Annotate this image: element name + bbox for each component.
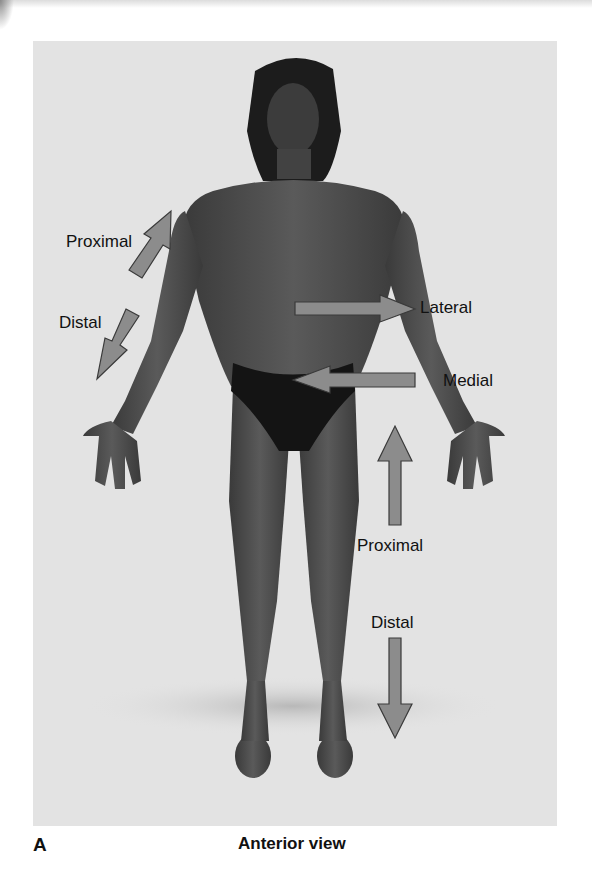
human-figure-illustration [33,41,557,826]
panel-letter: A [33,834,47,856]
label-arm-proximal: Proximal [66,232,132,252]
label-leg-proximal: Proximal [357,536,423,556]
page-edge-shadow [0,0,14,30]
floor-shadow [83,676,503,736]
arrow-arm-distal [97,309,139,379]
figure-caption: Anterior view [238,834,346,854]
cropped-text-line [0,0,592,8]
arrow-leg-proximal [378,426,412,525]
anatomical-photo [33,41,557,826]
label-lateral: Lateral [420,298,472,318]
label-medial: Medial [443,371,493,391]
label-arm-distal: Distal [59,313,102,333]
arrow-arm-proximal [129,211,171,278]
label-leg-distal: Distal [371,613,414,633]
